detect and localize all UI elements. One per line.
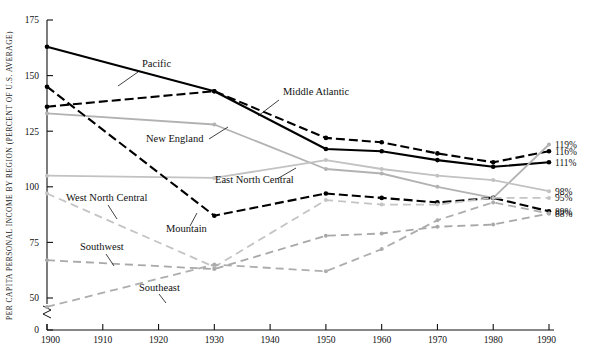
data-point <box>491 178 495 182</box>
data-point <box>435 185 439 189</box>
data-point <box>435 174 439 178</box>
data-point <box>491 223 495 227</box>
data-point <box>45 84 50 89</box>
series-line <box>47 194 549 267</box>
data-point <box>491 200 495 204</box>
data-point <box>324 136 329 141</box>
annotation-label: New England <box>146 133 204 144</box>
x-tick-label: 1970 <box>428 335 447 345</box>
x-tick-label: 1900 <box>41 335 60 345</box>
series-southwest: 88% <box>45 209 573 271</box>
data-point <box>324 198 328 202</box>
series-end-label: 88% <box>555 209 573 219</box>
data-point <box>379 149 384 154</box>
annotation-new-england: New England <box>146 127 228 144</box>
data-point <box>435 151 440 156</box>
chart-container: PER CAPITA PERSONAL INCOME BY REGION (PE… <box>0 0 596 348</box>
series-new-england: 119% <box>45 111 577 199</box>
data-point <box>435 225 439 229</box>
series-line <box>47 202 549 307</box>
data-point <box>547 189 551 193</box>
annotation-leader-line <box>106 254 114 266</box>
x-tick-label: 1920 <box>149 335 168 345</box>
data-point <box>212 123 216 127</box>
y-axis-title: PER CAPITA PERSONAL INCOME BY REGION (PE… <box>5 31 14 320</box>
data-point <box>380 172 384 176</box>
data-point <box>491 160 496 165</box>
data-point <box>324 234 328 238</box>
data-point <box>435 203 439 207</box>
x-tick-label: 1930 <box>205 335 224 345</box>
data-point <box>324 191 329 196</box>
data-point <box>380 203 384 207</box>
data-point <box>324 269 328 273</box>
data-point <box>324 158 328 162</box>
y-tick-label: 175 <box>25 15 40 25</box>
data-point <box>379 196 384 201</box>
x-tick-label: 1950 <box>316 335 335 345</box>
annotation-middle-atlantic: Middle Atlantic <box>258 86 350 116</box>
y-tick-label: 125 <box>25 127 40 137</box>
data-point <box>212 267 216 271</box>
series-pacific: 111% <box>45 44 577 169</box>
data-point <box>380 167 384 171</box>
y-tick-label: 0 <box>34 325 39 335</box>
annotation-leader-line <box>209 127 228 139</box>
data-point <box>547 149 552 154</box>
y-tick-label: 75 <box>30 238 40 248</box>
series-end-label: 111% <box>555 158 577 168</box>
series-line <box>47 47 549 167</box>
annotation-leader-line <box>159 294 166 303</box>
data-point <box>45 44 50 49</box>
data-point <box>324 147 329 152</box>
annotation-leader-line <box>118 72 138 86</box>
series-line <box>47 91 549 162</box>
series-line <box>47 113 549 197</box>
y-tick-label: 100 <box>25 182 40 192</box>
annotation-southeast: Southeast <box>139 282 180 303</box>
y-tick-label: 50 <box>30 293 40 303</box>
x-tick-label: 1960 <box>372 335 391 345</box>
data-point <box>45 174 49 178</box>
x-tick-label: 1910 <box>93 335 112 345</box>
annotation-label: Southwest <box>80 241 124 252</box>
annotation-label: Southeast <box>139 282 180 293</box>
data-point <box>380 247 384 251</box>
line-chart: PER CAPITA PERSONAL INCOME BY REGION (PE… <box>0 0 596 348</box>
data-point <box>435 158 440 163</box>
data-point <box>212 263 216 267</box>
annotations: PacificMiddle AtlanticNew EnglandEast No… <box>66 58 350 303</box>
data-point <box>491 196 495 200</box>
x-tick-label: 1940 <box>261 335 280 345</box>
y-axis-title-text: PER CAPITA PERSONAL INCOME BY REGION (PE… <box>5 31 14 320</box>
data-point <box>547 160 552 165</box>
x-tick-label: 1990 <box>537 335 556 345</box>
data-point <box>491 165 496 170</box>
x-tick-label: 1980 <box>484 335 503 345</box>
annotation-label: Pacific <box>142 58 171 69</box>
data-point <box>45 104 50 109</box>
annotation-label: Middle Atlantic <box>283 86 350 97</box>
data-point <box>547 143 551 147</box>
series-middle-atlantic: 116% <box>45 89 577 165</box>
data-point <box>547 212 551 216</box>
data-point <box>380 232 384 236</box>
data-point <box>45 192 49 196</box>
annotation-label: Mountain <box>166 223 208 234</box>
y-tick-label: 150 <box>25 71 40 81</box>
data-point <box>45 258 49 262</box>
series-end-label: 95% <box>555 193 573 203</box>
data-point <box>379 140 384 145</box>
data-point <box>435 218 439 222</box>
annotation-label: West North Central <box>66 192 147 203</box>
annotation-west-north-central: West North Central <box>66 192 147 219</box>
data-point <box>212 89 217 94</box>
annotation-leader-line <box>108 205 117 219</box>
data-point <box>45 111 49 115</box>
annotation-mountain: Mountain <box>166 213 208 234</box>
data-point <box>212 213 217 218</box>
data-point <box>45 305 49 309</box>
series-end-label: 119% <box>555 140 577 150</box>
data-point <box>547 196 551 200</box>
annotation-label: East North Central <box>215 174 294 185</box>
